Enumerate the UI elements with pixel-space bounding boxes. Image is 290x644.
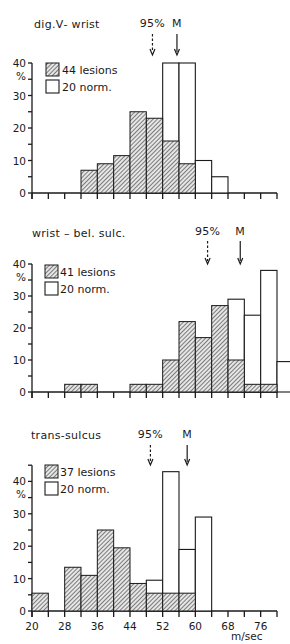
bars [32, 472, 212, 611]
bar-norm [261, 270, 277, 392]
y-tick-label: 10 [13, 354, 26, 366]
panel-title: dig.Ⅴ- wrist [34, 18, 100, 31]
annotation-label: 95% [140, 17, 165, 30]
legend-label-lesions: 44 lesions [62, 64, 118, 77]
y-tick-label: 0 [19, 386, 26, 398]
bar-norm [163, 472, 179, 611]
bar-lesions [81, 170, 97, 193]
x-tick-label: 28 [58, 620, 71, 632]
y-unit-label: % [16, 488, 26, 500]
y-tick-label: 30 [13, 290, 26, 302]
x-tick-label: 36 [91, 620, 105, 632]
legend-swatch-norm [45, 482, 58, 495]
legend: 41 lesions 20 norm. [45, 265, 116, 296]
bar-lesions [130, 583, 146, 611]
legend-swatch-lesions [46, 63, 59, 76]
bar-norm [212, 177, 228, 193]
bar-lesions [81, 384, 97, 392]
y-tick-label: 30 [13, 508, 26, 520]
bar-lesions [179, 593, 195, 611]
bar-lesions [146, 593, 162, 611]
x-tick-label: 52 [156, 620, 169, 632]
y-tick-label: 20 [13, 322, 26, 334]
legend-swatch-lesions [45, 265, 58, 278]
annotation-mean: M [182, 428, 192, 465]
panel-dig-v-wrist: dig.Ⅴ- wrist 010203040% 95%M 44 lesions … [13, 17, 277, 199]
legend-swatch-norm [45, 282, 58, 295]
bar-lesions [163, 141, 179, 193]
annotations: 95%M [195, 225, 245, 264]
bar-lesions [114, 156, 130, 193]
bar-lesions [97, 164, 113, 193]
panel-trans-sulcus: trans-sulcus 010203040%2028364452606876 … [13, 428, 277, 642]
legend-swatch-norm [46, 80, 59, 93]
annotation-mean: M [172, 17, 182, 55]
bar-lesions [244, 384, 260, 392]
annotation-label: 95% [138, 428, 163, 441]
panel-wrist-bel-sulc: wrist – bel. sulc. 010203040% 95%M 41 le… [13, 225, 290, 398]
bar-lesions [130, 112, 146, 193]
legend-swatch-lesions [45, 465, 58, 478]
bar-lesions [81, 575, 97, 611]
y-tick-label: 30 [13, 90, 26, 102]
bar-lesions [97, 530, 113, 611]
bar-lesions [146, 384, 162, 392]
y-tick-label: 10 [13, 573, 26, 585]
bar-lesions [65, 384, 81, 392]
bar-lesions [163, 593, 179, 611]
annotation-mean: M [235, 225, 245, 264]
y-tick-label: 40 [13, 475, 26, 487]
legend-label-norm: 20 norm. [62, 81, 112, 94]
histogram-figure: dig.Ⅴ- wrist 010203040% 95%M 44 lesions … [0, 0, 290, 644]
bar-norm [195, 161, 211, 194]
bar-lesions [114, 548, 130, 611]
legend-label-norm: 20 norm. [60, 483, 110, 496]
y-tick-label: 20 [13, 122, 26, 134]
annotations: 95%M [138, 428, 192, 465]
bar-lesions [212, 306, 228, 392]
bar-norm [277, 362, 290, 392]
y-unit-label: % [16, 271, 26, 283]
legend: 37 lesions 20 norm. [45, 465, 116, 496]
y-tick-label: 0 [19, 605, 26, 617]
annotation-label: 95% [195, 225, 220, 238]
annotation-95-percent: 95% [138, 428, 163, 465]
panel-title: trans-sulcus [31, 429, 101, 442]
annotation-label: M [172, 17, 182, 30]
x-tick-label: 44 [123, 620, 137, 632]
annotation-95-percent: 95% [140, 17, 165, 55]
bar-lesions [179, 322, 195, 392]
y-tick-label: 40 [13, 258, 26, 270]
y-unit-label: % [16, 70, 26, 82]
bar-lesions [163, 360, 179, 392]
bar-lesions [228, 360, 244, 392]
annotation-label: M [182, 428, 192, 441]
x-tick-label: 60 [189, 620, 202, 632]
annotation-95-percent: 95% [195, 225, 220, 264]
y-tick-label: 40 [13, 57, 26, 69]
x-axis-unit-label: m/sec [231, 630, 263, 642]
bar-lesions [32, 593, 48, 611]
y-tick-label: 0 [19, 187, 26, 199]
panel-title: wrist – bel. sulc. [32, 227, 126, 240]
x-tick-label: 20 [25, 620, 38, 632]
bar-lesions [130, 384, 146, 392]
bar-norm [195, 517, 211, 611]
annotations: 95%M [140, 17, 182, 55]
bar-lesions [179, 164, 195, 193]
y-tick-label: 20 [13, 540, 26, 552]
bar-lesions [261, 384, 277, 392]
legend-label-norm: 20 norm. [60, 283, 110, 296]
legend-label-lesions: 41 lesions [60, 266, 116, 279]
y-tick-label: 10 [13, 155, 26, 167]
bar-lesions [195, 338, 211, 392]
legend: 44 lesions 20 norm. [46, 63, 118, 94]
bar-lesions [65, 567, 81, 611]
legend-label-lesions: 37 lesions [60, 466, 116, 479]
annotation-label: M [235, 225, 245, 238]
bar-lesions [146, 118, 162, 193]
bar-norm [244, 315, 260, 392]
